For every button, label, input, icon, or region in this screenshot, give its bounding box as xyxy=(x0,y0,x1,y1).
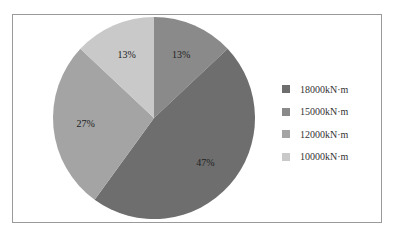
legend-item: 15000kN·m xyxy=(282,101,348,124)
slice-label: 13% xyxy=(118,49,136,60)
legend-swatch xyxy=(282,85,290,93)
legend-label: 15000kN·m xyxy=(300,106,348,117)
slice-label: 47% xyxy=(196,157,214,168)
legend-item: 12000kN·m xyxy=(282,123,348,146)
legend-swatch xyxy=(282,108,290,116)
slice-label: 13% xyxy=(172,49,190,60)
legend-label: 10000kN·m xyxy=(300,151,348,162)
legend: 18000kN·m 15000kN·m 12000kN·m 10000kN·m xyxy=(282,78,348,168)
legend-item: 10000kN·m xyxy=(282,146,348,169)
legend-swatch xyxy=(282,153,290,161)
legend-swatch xyxy=(282,130,290,138)
legend-label: 12000kN·m xyxy=(300,129,348,140)
legend-item: 18000kN·m xyxy=(282,78,348,101)
slice-label: 27% xyxy=(76,118,94,129)
legend-label: 18000kN·m xyxy=(300,84,348,95)
